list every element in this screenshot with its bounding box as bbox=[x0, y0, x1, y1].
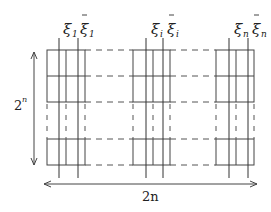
label-xibar-i: ξ bbox=[167, 20, 176, 38]
block-i bbox=[133, 38, 170, 178]
label-xibar-n-sub: n bbox=[261, 29, 267, 39]
label-xi-i: ξ bbox=[151, 20, 160, 38]
vertical-dimension-exponent: n bbox=[22, 95, 27, 104]
vertical-dimension: 2 n bbox=[14, 52, 34, 165]
label-xi-1: ξ bbox=[63, 20, 72, 38]
label-xi-1-sub: 1 bbox=[72, 29, 78, 39]
label-xi-n: ξ bbox=[234, 20, 243, 38]
grid-diagram: ξ 1 ξ 1 ξ i ξ i ξ n ξ n 2 n bbox=[0, 0, 271, 212]
column-labels: ξ 1 ξ 1 ξ i ξ i ξ n ξ n bbox=[63, 15, 267, 39]
label-xibar-i-sub: i bbox=[176, 29, 179, 39]
horizontal-dimension-label: 2n bbox=[142, 189, 159, 204]
horizontal-dimension: 2n bbox=[44, 184, 257, 204]
block-1 bbox=[47, 38, 85, 178]
row-connectors bbox=[85, 50, 216, 165]
label-xi-n-sub: n bbox=[243, 29, 249, 39]
label-xibar-1: ξ bbox=[80, 20, 89, 38]
label-xibar-n: ξ bbox=[252, 20, 261, 38]
label-xibar-1-sub: 1 bbox=[89, 29, 95, 39]
block-n bbox=[216, 38, 254, 178]
label-xi-i-sub: i bbox=[160, 29, 163, 39]
